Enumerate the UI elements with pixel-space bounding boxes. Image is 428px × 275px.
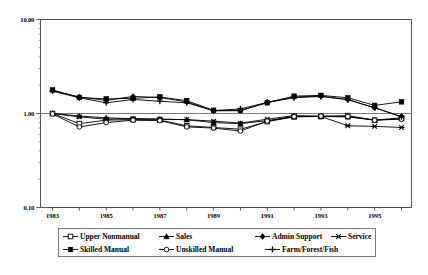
legend-label: Farm/Forest/Fish: [282, 245, 338, 254]
series-farm-forest-fish: [50, 88, 405, 120]
legend-label: Skilled Manual: [80, 245, 129, 254]
legend-item-sales[interactable]: Sales: [159, 232, 255, 241]
legend-item-upper-nonmanual[interactable]: Upper Nonmanual: [63, 232, 159, 241]
legend-item-admin-support[interactable]: Admin Support: [255, 232, 331, 241]
filled-diamond-marker-icon: [255, 232, 270, 241]
star-x-marker-icon: [331, 232, 346, 241]
chart-legend: Upper Nonmanual Sales Admin Support Serv…: [58, 228, 376, 257]
legend-label: Unskilled Manual: [176, 245, 233, 254]
open-circle-marker-icon: [159, 245, 174, 254]
legend-item-unskilled-manual[interactable]: Unskilled Manual: [159, 245, 265, 254]
plus-marker-icon: [265, 245, 280, 254]
series-admin-support: [50, 88, 404, 120]
legend-label: Admin Support: [272, 232, 322, 241]
filled-square-marker-icon: [63, 245, 78, 254]
legend-label: Service: [348, 232, 371, 241]
legend-row-1: Upper Nonmanual Sales Admin Support Serv…: [63, 230, 375, 243]
series-upper-nonmanual: [50, 111, 404, 131]
legend-item-skilled-manual[interactable]: Skilled Manual: [63, 245, 159, 254]
legend-item-farm-forest-fish[interactable]: Farm/Forest/Fish: [265, 245, 338, 254]
legend-row-2: Skilled Manual Unskilled Manual Farm/For…: [63, 243, 375, 256]
series-sales: [50, 111, 404, 126]
legend-item-service[interactable]: Service: [331, 232, 371, 241]
legend-label: Upper Nonmanual: [80, 232, 140, 241]
open-square-marker-icon: [63, 232, 78, 241]
legend-label: Sales: [176, 232, 192, 241]
filled-triangle-marker-icon: [159, 232, 174, 241]
chart-figure: 10.00 1.00 0.10 1983 1985 1987 1989 1991…: [0, 0, 428, 275]
